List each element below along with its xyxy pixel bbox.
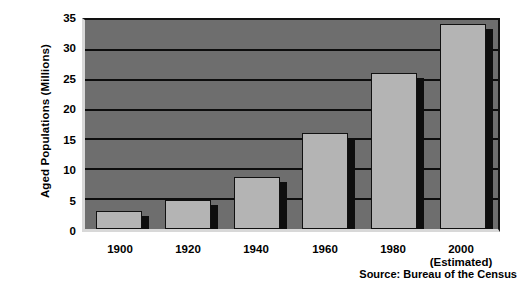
plot-area xyxy=(82,18,500,232)
gridline-30 xyxy=(85,49,498,51)
bar-2000 xyxy=(440,24,486,229)
gridline-10 xyxy=(85,168,498,170)
chart-figure: Aged Populations (Millions) 35 30 25 20 … xyxy=(0,0,529,291)
y-tick-15: 15 xyxy=(50,135,76,147)
x-tick-2000: 2000 (Estimated) xyxy=(421,243,501,269)
y-tick-25: 25 xyxy=(50,74,76,86)
bar-1980 xyxy=(371,73,417,229)
x-tick-1940: 1940 xyxy=(216,243,296,256)
x-tick-1920-label: 1920 xyxy=(175,243,201,255)
y-tick-35: 35 xyxy=(50,13,76,25)
bar-1960 xyxy=(302,133,348,229)
y-axis-tick-labels: 35 30 25 20 15 10 5 0 xyxy=(44,0,76,291)
y-tick-5: 5 xyxy=(50,196,76,208)
gridline-5 xyxy=(85,198,498,200)
bar-1920 xyxy=(165,200,211,229)
y-tick-30: 30 xyxy=(50,43,76,55)
gridline-15 xyxy=(85,138,498,140)
x-tick-1960-label: 1960 xyxy=(312,243,338,255)
bar-1900 xyxy=(96,211,142,229)
x-tick-1940-label: 1940 xyxy=(243,243,269,255)
plot-inner xyxy=(85,20,498,229)
x-tick-1980-label: 1980 xyxy=(380,243,406,255)
y-tick-10: 10 xyxy=(50,165,76,177)
x-tick-2000-label: 2000 xyxy=(448,243,474,255)
source-note: Source: Bureau of the Census xyxy=(359,268,517,280)
y-tick-20: 20 xyxy=(50,104,76,116)
x-tick-1900-label: 1900 xyxy=(107,243,133,255)
bar-1940 xyxy=(234,177,280,229)
gridline-20 xyxy=(85,109,498,111)
y-tick-0: 0 xyxy=(50,226,76,238)
gridline-25 xyxy=(85,79,498,81)
